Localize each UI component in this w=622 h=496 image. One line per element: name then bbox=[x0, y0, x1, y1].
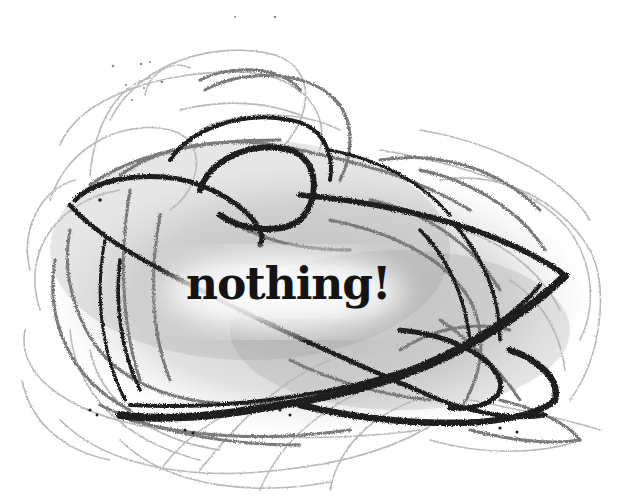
caption-text: nothing! bbox=[186, 262, 390, 306]
scribble-drawing bbox=[0, 0, 622, 496]
scribble-illustration: nothing! bbox=[0, 0, 622, 496]
graphite-specks bbox=[112, 16, 277, 101]
